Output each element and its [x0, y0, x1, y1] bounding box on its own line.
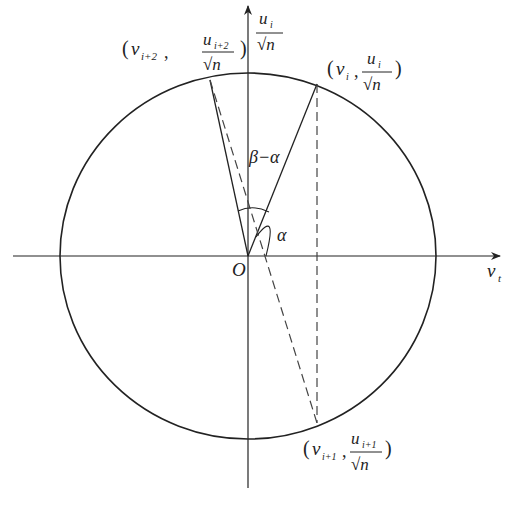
svg-text:i+2: i+2 — [141, 50, 157, 62]
svg-text:(: ( — [122, 37, 129, 60]
svg-text:√n: √n — [363, 75, 381, 94]
svg-text:v: v — [131, 38, 140, 59]
svg-text:i+2: i+2 — [214, 40, 229, 51]
svg-text:,: , — [342, 441, 347, 461]
arc-beta-minus-alpha — [238, 208, 269, 212]
svg-text:v: v — [312, 438, 321, 459]
dashed-chord-p-i-plus-2-to-p-i-plus-1 — [210, 80, 317, 423]
svg-text:i+1: i+1 — [362, 439, 377, 450]
svg-text:√n: √n — [351, 455, 369, 474]
svg-text:i: i — [270, 19, 273, 30]
svg-text:,: , — [354, 61, 359, 81]
diagram-canvas: O β−α α v t u i √n ( v i+2 , u i+2 √n ) … — [0, 0, 505, 515]
origin-label: O — [232, 259, 246, 280]
svg-text:): ) — [385, 437, 392, 460]
svg-text:): ) — [240, 37, 247, 60]
svg-text:u: u — [367, 49, 376, 68]
svg-text:i: i — [346, 71, 349, 82]
svg-text:u: u — [203, 30, 212, 49]
svg-text:√n: √n — [203, 55, 221, 74]
vertical-axis-label: u i √n — [256, 9, 283, 54]
svg-text:,: , — [164, 42, 169, 62]
point-label-p-i: ( v i , u i √n ) — [327, 49, 402, 94]
svg-text:(: ( — [303, 437, 310, 460]
svg-text:i+1: i+1 — [322, 451, 337, 462]
horizontal-axis-label: v t — [487, 260, 502, 284]
svg-text:v: v — [487, 260, 496, 281]
svg-text:t: t — [498, 272, 502, 284]
svg-text:v: v — [336, 58, 345, 79]
angle-beta-minus-alpha-label: β−α — [248, 147, 280, 167]
point-label-p-i-plus-1: ( v i+1 , u i+1 √n ) — [303, 429, 392, 474]
ray-to-p-i-plus-2 — [210, 80, 248, 256]
svg-text:u: u — [259, 9, 268, 28]
point-label-p-i-plus-2: ( v i+2 , u i+2 √n ) — [122, 30, 247, 74]
svg-text:): ) — [395, 57, 402, 80]
svg-text:u: u — [351, 429, 360, 448]
svg-text:√n: √n — [257, 35, 275, 54]
svg-text:i: i — [378, 59, 381, 70]
svg-text:(: ( — [327, 57, 334, 80]
angle-alpha-label: α — [277, 225, 287, 245]
